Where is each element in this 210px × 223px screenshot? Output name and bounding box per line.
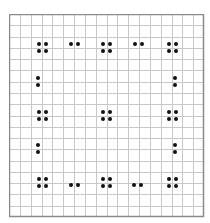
dot-top-mid-left [76, 42, 80, 46]
dot-left-lower [36, 143, 40, 147]
dot-top-right [167, 42, 171, 46]
dot-top-center [108, 49, 112, 53]
dot-pattern [0, 0, 210, 223]
dot-mid-right [174, 117, 178, 121]
dot-bottom-mid-left [76, 183, 80, 187]
dot-bottom-right [174, 177, 178, 181]
dot-top-center [101, 49, 105, 53]
dot-left-upper [36, 76, 40, 80]
dot-bottom-center [108, 184, 112, 188]
dot-mid-right [167, 117, 171, 121]
dot-top-center [101, 42, 105, 46]
dot-mid-left [37, 110, 41, 114]
dot-mid-left [37, 117, 41, 121]
dot-bottom-mid-right [139, 183, 143, 187]
dot-bottom-mid-right [132, 183, 136, 187]
dot-bottom-left [37, 177, 41, 181]
dot-left-upper [36, 83, 40, 87]
dot-right-upper [173, 76, 177, 80]
dot-center [108, 117, 112, 121]
dot-top-mid-left [69, 42, 73, 46]
dot-right-upper [173, 83, 177, 87]
dot-mid-left [44, 117, 48, 121]
dot-top-left [37, 49, 41, 53]
dot-bottom-mid-left [69, 183, 73, 187]
dot-top-left [37, 42, 41, 46]
dot-top-left [44, 42, 48, 46]
dot-right-lower [173, 143, 177, 147]
dot-center [101, 110, 105, 114]
dot-left-lower [36, 150, 40, 154]
dot-right-lower [173, 150, 177, 154]
dot-center [101, 117, 105, 121]
dot-bottom-left [37, 184, 41, 188]
dot-top-mid-right [133, 42, 137, 46]
dot-top-left [44, 49, 48, 53]
dot-top-center [108, 42, 112, 46]
dot-bottom-right [174, 184, 178, 188]
dot-top-right [174, 42, 178, 46]
dot-mid-right [167, 110, 171, 114]
dot-mid-right [174, 110, 178, 114]
dot-bottom-center [101, 184, 105, 188]
dot-bottom-center [101, 177, 105, 181]
dot-top-mid-right [140, 42, 144, 46]
dot-top-right [167, 49, 171, 53]
dot-top-right [174, 49, 178, 53]
dot-bottom-center [108, 177, 112, 181]
dot-bottom-left [44, 177, 48, 181]
dot-bottom-right [167, 184, 171, 188]
dot-bottom-left [44, 184, 48, 188]
dot-mid-left [44, 110, 48, 114]
dot-bottom-right [167, 177, 171, 181]
dot-center [108, 110, 112, 114]
